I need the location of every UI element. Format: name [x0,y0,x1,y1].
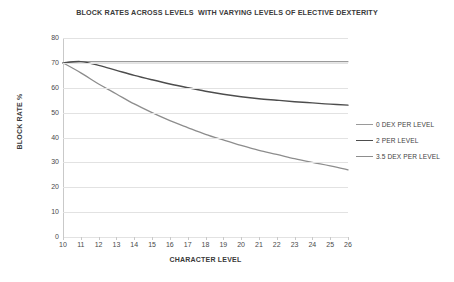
legend-line-icon [356,156,373,157]
gridline [63,113,348,114]
x-axis-tick-mark [277,237,278,240]
y-axis-tick-label: 80 [29,34,59,42]
chart-legend: 0 DEX PER LEVEL2 PER LEVEL3.5 DEX PER LE… [356,116,452,164]
x-axis-tick-mark [116,237,117,240]
x-axis-tick-mark [348,237,349,240]
series-line [63,63,348,170]
legend-item[interactable]: 3.5 DEX PER LEVEL [356,148,452,164]
gridline [63,63,348,64]
series-line [63,62,348,106]
chart-title: BLOCK RATES ACROSS LEVELS WITH VARYING L… [0,8,454,17]
x-axis-tick-mark [330,237,331,240]
x-axis-tick-mark [152,237,153,240]
x-axis-title: CHARACTER LEVEL [63,256,348,263]
chart-container: BLOCK RATES ACROSS LEVELS WITH VARYING L… [0,0,454,282]
gridline [63,88,348,89]
x-axis-tick-mark [63,237,64,240]
x-axis-tick-mark [259,237,260,240]
legend-label: 3.5 DEX PER LEVEL [376,153,440,160]
gridline [63,38,348,39]
y-axis-tick-label: 50 [29,109,59,117]
gridline [63,187,348,188]
x-axis-tick-mark [170,237,171,240]
gridline [63,162,348,163]
x-axis-tick-mark [188,237,189,240]
y-axis-tick-label: 10 [29,208,59,216]
legend-label: 2 PER LEVEL [376,137,419,144]
y-axis-tick-label: 70 [29,59,59,67]
legend-item[interactable]: 2 PER LEVEL [356,132,452,148]
x-axis-tick-mark [206,237,207,240]
x-axis-tick-label: 26 [337,240,359,249]
x-axis-tick-labels: 1011121314151617181920212223242526 [63,240,348,254]
plot-area [63,38,348,237]
gridline [63,138,348,139]
x-axis-tick-mark [241,237,242,240]
y-axis-tick-labels: 01020304050607080 [26,38,59,237]
legend-line-icon [356,124,373,125]
y-axis-tick-label: 60 [29,84,59,92]
x-axis-tick-mark [99,237,100,240]
x-axis-tick-mark [81,237,82,240]
x-axis-tick-mark [134,237,135,240]
y-axis-tick-label: 20 [29,183,59,191]
legend-line-icon [356,140,373,141]
y-axis-title: BLOCK RATE % [16,87,23,157]
legend-item[interactable]: 0 DEX PER LEVEL [356,116,452,132]
x-axis-tick-mark [295,237,296,240]
gridline [63,212,348,213]
x-axis-tick-mark [312,237,313,240]
y-axis-tick-label: 40 [29,134,59,142]
legend-label: 0 DEX PER LEVEL [376,121,434,128]
x-axis-tick-mark [223,237,224,240]
y-axis-tick-label: 30 [29,158,59,166]
